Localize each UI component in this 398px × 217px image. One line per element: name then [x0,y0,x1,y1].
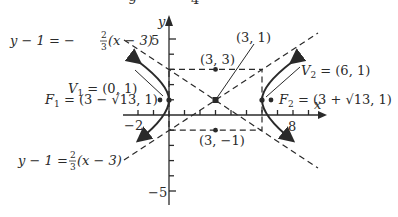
points [158,67,274,133]
focus-f1 [158,98,163,103]
x-axis-arrow-icon [318,111,327,119]
cutoff-digit-9: 9 [128,0,136,7]
x-tick-neg2: −2 [124,118,143,133]
center-point [213,97,219,103]
f2-label: F2 = (3 + √13, 1) [278,92,392,109]
y-axis-arrow-icon [165,15,173,26]
vertex-v1 [166,97,171,102]
frac-num-desc: 2 [101,30,107,40]
point-3-3 [213,67,218,72]
asymptote-label-desc: y − 1 = − [9,33,75,48]
v2-label: V2 = (6, 1) [301,63,370,80]
x-tick-8: 8 [288,119,296,134]
frac-den-desc: 3 [101,42,107,52]
point-3-3-label: (3, 3) [200,52,235,67]
hyperbola-diagram: 9 4 y x 5 −5 −2 8 [0,0,398,217]
focus-f2 [269,98,274,103]
y-tick-neg5: −5 [148,185,167,200]
cutoff-digit-4: 4 [191,0,199,7]
f1-label: F1 = (3 − √13, 1) [44,92,158,109]
asymptote-rhs-desc: (x − 3) [108,33,153,48]
asymptote-label-asc: y − 1 = [17,153,68,168]
point-3-neg1 [213,128,218,133]
frac-den-asc: 3 [70,162,76,172]
center-label: (3, 1) [236,30,271,45]
frac-num-asc: 2 [70,150,76,160]
y-axis-label: y [157,14,166,29]
asymptote-rhs-asc: (x − 3) [77,153,122,168]
vertex-v2 [259,97,264,102]
point-3-neg1-label: (3, −1) [199,133,245,148]
